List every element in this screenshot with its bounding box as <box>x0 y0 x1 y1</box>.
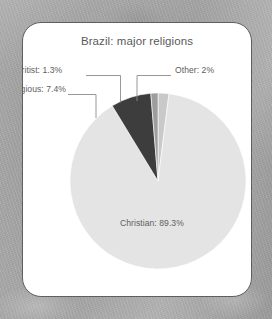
leader-line-nonreligious <box>68 95 96 119</box>
pie-label-christian: Christian: 89.3% <box>120 218 184 228</box>
pie-slice-group <box>70 93 246 269</box>
leader-line-spiritist <box>86 76 121 103</box>
pie-label-other: Other: 2% <box>175 65 214 75</box>
pie-label-spiritist: Spiritist: 1.3% <box>22 65 62 75</box>
pie-chart-plot-area: Spiritist: 1.3% Nonreligious: 7.4% Other… <box>23 23 251 296</box>
pie-label-nonreligious: Nonreligious: 7.4% <box>22 84 66 94</box>
chart-card: Brazil: major religions Spiritist: 1.3% … <box>22 22 252 297</box>
